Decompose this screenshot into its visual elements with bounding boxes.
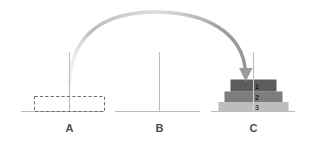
peg-label-c: C — [250, 122, 258, 134]
peg-label-a: A — [66, 122, 74, 134]
disk-label-1: 1 — [255, 83, 259, 90]
move-arrow-head-icon — [239, 68, 253, 82]
disk-labels: 1 2 3 — [255, 83, 259, 111]
disk-stack-c — [219, 79, 289, 112]
peg-label-b: B — [156, 122, 164, 134]
peg-labels: A B C — [66, 122, 258, 134]
hanoi-diagram-canvas: A B C 1 2 3 — [0, 0, 312, 145]
move-arrow-a-to-c — [70, 12, 253, 85]
disk-label-3: 3 — [255, 104, 259, 111]
move-arrow-arc — [70, 12, 246, 85]
disk-label-2: 2 — [255, 94, 259, 101]
hanoi-diagram: A B C 1 2 3 — [0, 0, 312, 145]
